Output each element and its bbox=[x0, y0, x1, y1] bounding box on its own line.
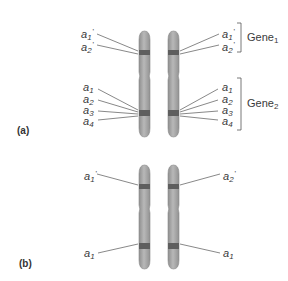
band-upper bbox=[139, 184, 150, 189]
panel-b-chromosome-left bbox=[139, 165, 150, 269]
panel-a-chromosome-right bbox=[168, 31, 179, 137]
label-a4-left: a4 bbox=[83, 116, 94, 130]
panel-a-label: (a) bbox=[17, 125, 29, 136]
gene1-bracket bbox=[237, 23, 241, 52]
chromosome-diagram bbox=[0, 0, 288, 281]
band-lower bbox=[139, 243, 150, 249]
label-a2-prime-right: a2' bbox=[222, 39, 235, 56]
label-b-a2-prime-right: a2' bbox=[223, 168, 236, 185]
label-a4-right: a4 bbox=[222, 116, 233, 130]
gene1-label: Gene1 bbox=[247, 32, 278, 46]
band-lower bbox=[168, 243, 179, 249]
band-gene1 bbox=[139, 50, 150, 55]
band-gene1 bbox=[168, 50, 179, 55]
band-upper bbox=[168, 184, 179, 189]
panel-b-label: (b) bbox=[19, 258, 32, 269]
label-b-a1-prime-left: a1' bbox=[84, 168, 97, 185]
band-gene2 bbox=[139, 110, 150, 116]
panel-a-right-leaders bbox=[180, 34, 219, 120]
gene-brackets bbox=[237, 23, 241, 130]
panel-a-chromosome-left bbox=[139, 31, 150, 137]
gene2-label: Gene2 bbox=[247, 98, 278, 112]
panel-b-chromosome-right bbox=[168, 165, 179, 269]
label-b-a1-left: a1 bbox=[84, 248, 95, 262]
label-b-a1-right: a1 bbox=[223, 248, 234, 262]
panel-a-left-leaders bbox=[97, 34, 138, 120]
band-gene2 bbox=[168, 110, 179, 116]
label-a2-prime-left: a2' bbox=[81, 39, 94, 56]
panel-b-leaders bbox=[97, 174, 220, 253]
gene2-bracket bbox=[237, 78, 241, 130]
